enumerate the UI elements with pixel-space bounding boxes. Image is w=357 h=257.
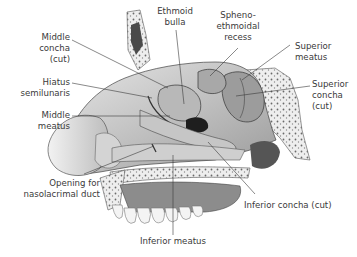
label-hiatus-semilunaris: Hiatus semilunaris — [10, 77, 70, 99]
label-spheno-ethmoidal-recess: Spheno- ethmoidal recess — [212, 10, 264, 43]
anatomy-figure: Middle concha (cut) Ethmoid bulla Spheno… — [0, 0, 357, 257]
label-superior-concha-cut: Superior concha (cut) — [312, 79, 348, 112]
label-middle-meatus: Middle meatus — [10, 110, 70, 132]
teeth — [112, 205, 203, 223]
label-middle-concha-cut: Middle concha (cut) — [10, 32, 70, 65]
label-superior-meatus: Superior meatus — [295, 41, 331, 63]
maxilla-alveolar — [100, 170, 125, 210]
label-ethmoid-bulla: Ethmoid bulla — [150, 6, 200, 28]
pharynx — [250, 141, 280, 169]
hard-palate — [110, 167, 250, 184]
label-opening-nasolacrimal-duct: Opening for nasolacrimal duct — [6, 178, 100, 200]
label-inferior-meatus: Inferior meatus — [128, 236, 218, 247]
label-inferior-concha-cut: Inferior concha (cut) — [244, 200, 332, 211]
